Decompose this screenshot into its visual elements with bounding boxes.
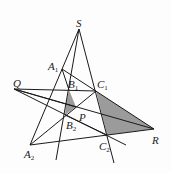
label-s: S <box>76 17 82 29</box>
label-a1: A1 <box>47 60 59 74</box>
diagram-svg: S A1 B1 C1 Q P B2 A2 C2 R <box>0 0 171 173</box>
line-a2-b2-ext <box>30 91 96 145</box>
label-a2: A2 <box>23 148 35 162</box>
label-r: R <box>151 134 159 146</box>
line-a2-r <box>30 129 154 145</box>
label-q: Q <box>13 77 21 89</box>
desargues-diagram: S A1 B1 C1 Q P B2 A2 C2 R <box>0 0 171 173</box>
label-b2: B2 <box>66 119 77 133</box>
line-s-c <box>79 29 114 163</box>
label-b1: B1 <box>68 78 79 92</box>
label-c1: C1 <box>97 78 108 92</box>
line-q-c1 <box>14 89 96 91</box>
label-p: P <box>78 111 86 123</box>
